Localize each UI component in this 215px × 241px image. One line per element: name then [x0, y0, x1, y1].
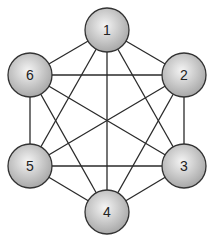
- edges-group: [30, 30, 184, 212]
- node-label-1: 1: [103, 22, 111, 38]
- node-2: 2: [162, 53, 206, 97]
- node-4: 4: [85, 190, 129, 234]
- node-label-5: 5: [26, 158, 34, 174]
- node-label-4: 4: [103, 204, 111, 220]
- edge-4-6: [30, 75, 107, 212]
- node-6: 6: [8, 53, 52, 97]
- node-1: 1: [85, 8, 129, 52]
- node-3: 3: [162, 144, 206, 188]
- node-5: 5: [8, 144, 52, 188]
- node-label-3: 3: [180, 158, 188, 174]
- node-label-2: 2: [180, 67, 188, 83]
- node-label-6: 6: [26, 67, 34, 83]
- complete-graph-diagram: 123456: [0, 0, 215, 241]
